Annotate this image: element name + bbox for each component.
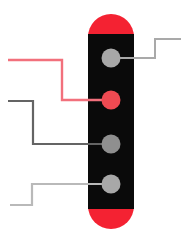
terminal-1-dot[interactable] — [102, 49, 121, 68]
terminal-2-dot[interactable] — [102, 91, 121, 110]
terminal-3-dot[interactable] — [102, 135, 121, 154]
terminal-4-dot[interactable] — [102, 175, 121, 194]
capsule-device[interactable] — [88, 14, 134, 229]
diagram-canvas — [0, 0, 195, 238]
capsule-callout-diagram — [0, 0, 195, 238]
